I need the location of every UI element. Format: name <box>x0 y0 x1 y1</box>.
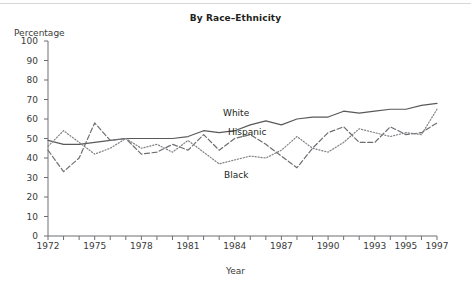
x-tick-label: 1997 <box>417 241 457 251</box>
x-tick-label: 1987 <box>261 241 301 251</box>
series-label-black: Black <box>224 170 248 180</box>
x-tick-label: 1984 <box>215 241 255 251</box>
y-axis-tick-marks <box>44 41 48 236</box>
x-tick-label: 1975 <box>75 241 115 251</box>
y-tick-label: 70 <box>12 95 38 105</box>
y-tick-label: 100 <box>12 36 38 46</box>
series-label-hispanic: Hispanic <box>228 127 266 137</box>
y-tick-label: 90 <box>12 56 38 66</box>
y-tick-label: 80 <box>12 75 38 85</box>
y-tick-label: 30 <box>12 173 38 183</box>
y-tick-label: 10 <box>12 212 38 222</box>
y-tick-label: 40 <box>12 153 38 163</box>
x-tick-label: 1978 <box>121 241 161 251</box>
y-tick-label: 20 <box>12 192 38 202</box>
series-label-white: White <box>223 108 249 118</box>
y-tick-label: 50 <box>12 134 38 144</box>
x-tick-label: 1981 <box>168 241 208 251</box>
y-tick-label: 0 <box>12 231 38 241</box>
x-tick-label: 1990 <box>308 241 348 251</box>
x-tick-label: 1972 <box>28 241 68 251</box>
y-tick-label: 60 <box>12 114 38 124</box>
x-axis-tick-marks <box>48 236 437 240</box>
